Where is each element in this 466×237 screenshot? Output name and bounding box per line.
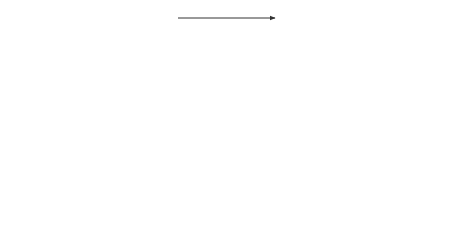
gop-frame-diagram (0, 0, 466, 237)
